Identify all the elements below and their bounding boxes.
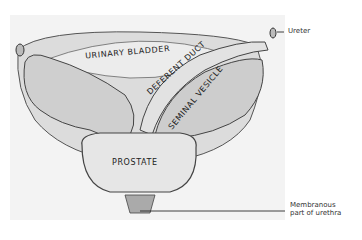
callout-membranous-line2: part of urethra	[290, 209, 341, 217]
callout-membranous-line1: Membranous	[290, 201, 336, 209]
right-ureter-stump	[270, 28, 276, 38]
left-ureter-stump	[16, 44, 24, 56]
label-prostate: PROSTATE	[112, 158, 158, 167]
callout-ureter: Ureter	[288, 27, 310, 35]
membranous-urethra-shape	[125, 195, 155, 213]
